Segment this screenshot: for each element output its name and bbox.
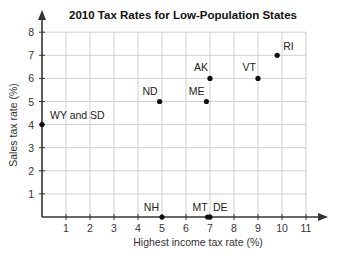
point-marker [275, 53, 280, 58]
x-tick-label: 1 [63, 222, 69, 234]
point-marker [157, 99, 162, 104]
data-points: WY and SDNDMEAKVTRINHMTDE [39, 40, 293, 219]
point-label: VT [243, 61, 257, 73]
x-tick-label: 9 [255, 222, 261, 234]
y-axis-arrow-icon [38, 10, 46, 20]
point-label: RI [283, 40, 294, 52]
point-label: NH [144, 201, 159, 213]
point-marker [207, 76, 212, 81]
chart-title: 2010 Tax Rates for Low-Population States [69, 9, 297, 21]
point-label: ND [142, 85, 158, 97]
point-marker [159, 214, 164, 219]
x-tick-label: 7 [207, 222, 213, 234]
x-tick-label: 10 [276, 222, 288, 234]
point-label: DE [213, 201, 228, 213]
point-label: MT [192, 201, 208, 213]
point-marker [39, 122, 44, 127]
x-tick-label: 5 [159, 222, 165, 234]
x-axis-label: Highest income tax rate (%) [133, 236, 263, 248]
y-tick-label: 3 [28, 142, 34, 154]
y-tick-label: 8 [28, 26, 34, 38]
scatter-chart: 2010 Tax Rates for Low-Population States… [0, 0, 340, 256]
x-tick-label: 3 [111, 222, 117, 234]
x-tick-label: 2 [87, 222, 93, 234]
point-label: WY and SD [50, 109, 105, 121]
point-label: AK [194, 61, 208, 73]
point-label: ME [189, 85, 205, 97]
point-marker [255, 76, 260, 81]
x-tick-label: 11 [301, 222, 312, 234]
y-tick-label: 1 [28, 188, 34, 200]
point-marker [207, 214, 212, 219]
x-tick-label: 4 [135, 222, 141, 234]
x-axis-arrow-icon [318, 213, 328, 221]
y-tick-label: 4 [28, 119, 34, 131]
point-marker [204, 99, 209, 104]
grid-lines [42, 32, 306, 217]
x-tick-label: 6 [183, 222, 189, 234]
y-tick-label: 2 [28, 165, 34, 177]
x-tick-label: 8 [231, 222, 237, 234]
y-tick-label: 6 [28, 72, 34, 84]
y-tick-label: 7 [28, 49, 34, 61]
y-tick-label: 5 [28, 96, 34, 108]
y-axis-label: Sales tax rate (%) [7, 83, 19, 166]
